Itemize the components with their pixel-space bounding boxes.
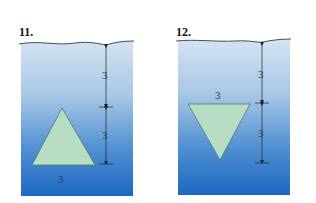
height-label: 3	[258, 127, 264, 139]
depth-label: 3	[258, 68, 264, 80]
figure-number: 11.	[19, 25, 33, 39]
figure-12: 12. 3 3 3	[176, 25, 291, 195]
hydrostatic-figures: 11. 3 3 3 12. 3 3 3	[0, 0, 316, 203]
water-body	[21, 41, 133, 196]
base-label: 3	[58, 173, 64, 185]
height-label: 3	[102, 129, 108, 141]
figure-11: 11. 3 3 3	[19, 25, 134, 196]
depth-label: 3	[102, 69, 108, 81]
top-edge-label: 3	[215, 89, 221, 101]
figure-number: 12.	[176, 25, 191, 39]
